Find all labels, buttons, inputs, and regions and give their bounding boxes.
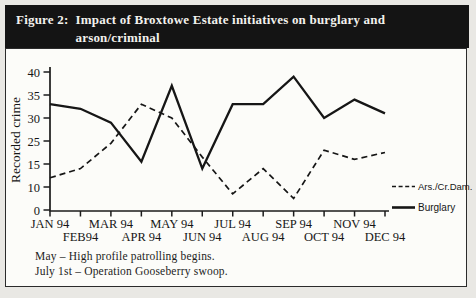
chart-axes [50,67,389,211]
x-tick-label: NOV 94 [333,217,376,231]
footnote-may: May – High profile patrolling begins. [35,249,228,264]
y-tick-label: 30 [28,112,41,126]
x-tick-label: SEP 94 [275,217,312,231]
y-tick-label: 10 [28,181,41,195]
x-tick-label: JAN 94 [31,217,70,231]
x-tick-label: MAR 94 [89,217,134,231]
legend-item-arson-criminal-damage: Ars./Cr.Dam. [392,181,472,192]
y-tick-label: 40 [28,66,41,80]
y-tick-label: 15 [28,158,41,172]
solid-line-sample-icon [392,204,415,211]
series-line-burglary [50,77,385,169]
y-tick-label: 25 [28,135,41,149]
y-tick-label: 35 [28,89,41,103]
x-tick-label: FEB94 [63,230,99,244]
y-tick-label: 0 [34,204,40,218]
figure-2-panel: Figure 2: Impact of Broxtowe Estate init… [0,0,476,298]
x-tick-label: APR 94 [121,230,162,244]
figure-footnotes: May – High profile patrolling begins. Ju… [35,249,228,278]
y-axis-title: Recorded crime [8,74,24,206]
dashed-line-sample-icon [392,183,415,190]
legend-label-arson-criminal-damage: Ars./Cr.Dam. [418,181,472,192]
x-tick-label: JUL 94 [214,217,251,231]
x-tick-label: OCT 94 [304,230,345,244]
x-tick-label: AUG 94 [242,230,285,244]
x-tick-label: JUN 94 [183,230,222,244]
legend-item-burglary: Burglary [392,202,455,213]
x-tick-label: MAY 94 [150,217,194,231]
x-tick-label: DEC 94 [365,230,406,244]
legend-label-burglary: Burglary [418,202,455,213]
footnote-july: July 1st – Operation Gooseberry swoop. [35,264,228,279]
